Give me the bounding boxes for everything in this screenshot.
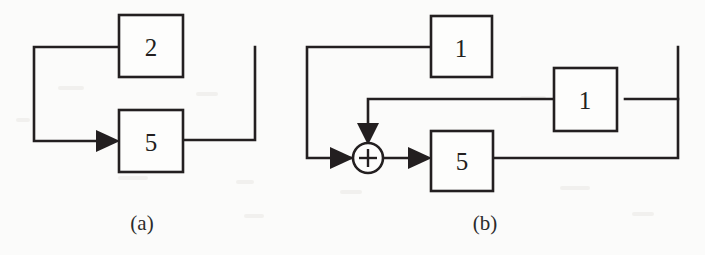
block-label-1-top: 1 <box>455 35 468 62</box>
block-b-top: 1 <box>431 16 492 77</box>
wire-b-right-block-out <box>368 99 554 126</box>
panel-a-caption: (a) <box>130 211 153 235</box>
arrowhead-into-sum-left <box>330 147 354 169</box>
block-b-plant: 5 <box>431 131 493 191</box>
panel-a: 2 5 (a) <box>34 15 255 235</box>
arrowhead-into-block-5a <box>96 130 120 152</box>
arrowhead-into-plant-block-5 <box>408 147 432 169</box>
block-a-top: 2 <box>119 15 183 77</box>
figure-root: 2 5 (a) <box>0 0 705 255</box>
block-label-5b: 5 <box>456 148 469 175</box>
block-label-1-right: 1 <box>579 87 592 114</box>
block-a-bottom: 5 <box>119 110 183 172</box>
block-diagram-canvas: 2 5 (a) <box>0 0 705 255</box>
panel-b-caption: (b) <box>473 211 498 235</box>
wire-a-feedback-loop <box>183 47 255 140</box>
block-label-2: 2 <box>145 34 158 61</box>
wire-a-return-path <box>34 47 119 141</box>
block-b-right: 1 <box>554 68 617 131</box>
summing-junction <box>353 143 383 173</box>
panel-b: 1 1 5 (b) <box>307 16 678 235</box>
arrowhead-into-sum-top <box>357 123 379 145</box>
block-label-5a: 5 <box>145 129 158 156</box>
